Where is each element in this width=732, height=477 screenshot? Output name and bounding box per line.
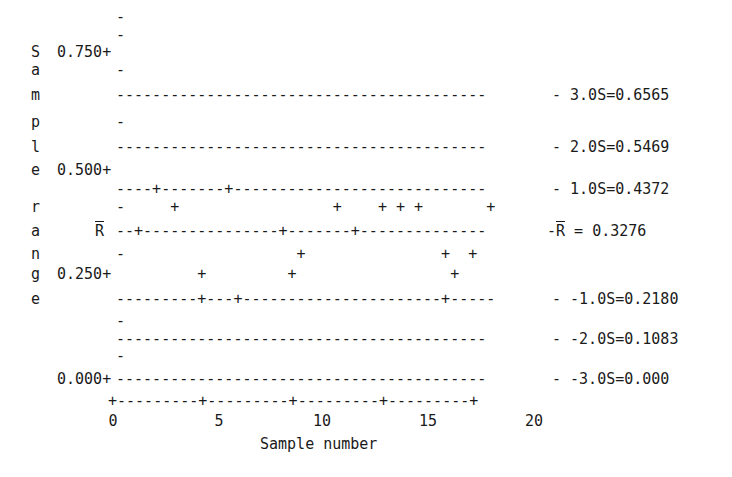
y-axis-label-char-S: S [31, 43, 40, 61]
y-tick-label-0750: 0.750+ [57, 43, 111, 61]
y-axis-label-char-g: g [31, 265, 40, 283]
y-axis-label-char-a: a [31, 61, 40, 79]
control-line-label-plus1sigma: - 1.0S=0.4372 [552, 180, 669, 198]
control-chart-r-chart: S a m p l e r a n g e 0.750+ 0.500+ 0.25… [0, 0, 732, 477]
y-axis-minor-tick: - [116, 26, 125, 44]
control-line-label-center: -R = 0.3276 [547, 222, 646, 240]
center-line-left-symbol: R [95, 222, 104, 240]
x-tick-label-20: 20 [523, 412, 545, 430]
control-line-label-minus1sigma: - -1.0S=0.2180 [552, 290, 678, 308]
data-point-row-0250: + + + [116, 265, 459, 283]
y-axis-minor-tick: - [116, 61, 125, 79]
control-line-label-plus3sigma: - 3.0S=0.6565 [552, 86, 669, 104]
control-line-plus3sigma: ----------------------------------------… [116, 86, 486, 104]
control-line-minus2sigma: ----------------------------------------… [116, 330, 486, 348]
x-axis-title: Sample number [260, 435, 377, 453]
x-tick-label-15: 15 [417, 412, 439, 430]
control-line-minus1sigma: ---------+---+----------------------+---… [116, 290, 495, 308]
x-tick-label-0: 0 [104, 412, 122, 430]
y-axis-label-char-e: e [31, 161, 40, 179]
y-axis-minor-tick: - [116, 347, 125, 365]
y-axis-label-char-l: l [31, 138, 40, 156]
y-tick-label-0250: 0.250+ [57, 265, 111, 283]
control-line-label-minus2sigma: - -2.0S=0.1083 [552, 330, 678, 348]
control-line-minus3sigma: ----------------------------------------… [116, 370, 486, 388]
y-axis-label-char-m: m [31, 86, 40, 104]
x-tick-label-10: 10 [311, 412, 333, 430]
control-line-plus2sigma: ----------------------------------------… [116, 138, 486, 156]
y-tick-label-0500: 0.500+ [57, 161, 111, 179]
x-tick-label-5: 5 [210, 412, 228, 430]
y-axis-label-char-n: n [31, 245, 40, 263]
y-axis-minor-tick: - [116, 312, 125, 330]
control-line-label-plus2sigma: - 2.0S=0.5469 [552, 138, 669, 156]
center-line-rbar: --+---------------+-------+-------------… [116, 222, 486, 240]
data-point-row-upper: + + + + + + [116, 198, 495, 216]
y-axis-label-char-r: r [31, 198, 40, 216]
control-line-plus1sigma: ----+-------+---------------------------… [116, 180, 486, 198]
y-axis-label-char-p: p [31, 113, 40, 131]
control-line-label-minus3sigma: - -3.0S=0.000 [552, 370, 669, 388]
x-axis-tick-row: +---------+---------+---------+---------… [108, 392, 478, 410]
y-axis-label-char-a2: a [31, 222, 40, 240]
data-point-row-lower-mid: + + + [116, 245, 477, 263]
y-axis-label-char-e2: e [31, 290, 40, 308]
y-tick-label-0000: 0.000+ [57, 370, 111, 388]
y-axis-minor-tick: - [116, 113, 125, 131]
y-axis-minor-tick: - [116, 8, 125, 26]
